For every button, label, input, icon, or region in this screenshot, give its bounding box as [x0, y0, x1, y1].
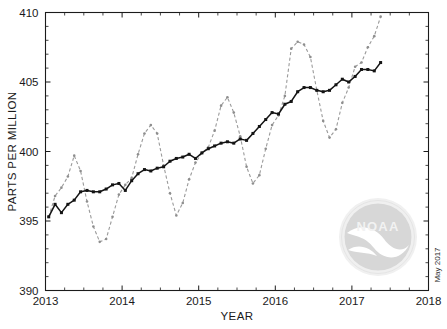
data-point-monthly [232, 111, 235, 114]
data-point-trend [303, 86, 306, 89]
data-point-trend [162, 165, 165, 168]
data-point-trend [366, 68, 369, 71]
ytick-label: 395 [19, 215, 38, 227]
data-point-monthly [213, 129, 216, 132]
data-point-monthly [79, 170, 82, 173]
data-point-trend [86, 189, 89, 192]
data-point-monthly [111, 216, 114, 219]
data-point-trend [73, 199, 76, 202]
data-point-trend [220, 142, 223, 145]
data-point-trend [347, 81, 350, 84]
data-point-monthly [143, 132, 146, 135]
data-point-trend [137, 172, 140, 175]
data-point-trend [175, 157, 178, 160]
series-line-trend [49, 63, 381, 217]
data-point-trend [54, 203, 57, 206]
data-point-monthly [98, 241, 101, 244]
data-point-monthly [67, 175, 70, 178]
data-point-monthly [354, 65, 357, 68]
data-point-trend [309, 86, 312, 89]
x-axis-title: YEAR [221, 310, 254, 322]
data-point-monthly [239, 135, 242, 138]
data-point-monthly [54, 195, 57, 198]
data-point-trend [296, 90, 299, 93]
data-point-monthly [118, 193, 121, 196]
data-point-monthly [271, 124, 274, 127]
series-line-monthly [49, 17, 381, 242]
data-point-trend [341, 78, 344, 81]
data-point-trend [245, 139, 248, 142]
data-point-trend [283, 103, 286, 106]
data-point-trend [98, 190, 101, 193]
data-point-trend [105, 188, 108, 191]
ytick-label: 405 [19, 76, 38, 88]
data-point-monthly [105, 238, 108, 241]
data-point-trend [143, 168, 146, 171]
data-point-monthly [335, 128, 338, 131]
data-point-monthly [258, 174, 261, 177]
data-point-monthly [341, 102, 344, 105]
data-point-trend [194, 157, 197, 160]
data-point-trend [322, 90, 325, 93]
data-point-monthly [347, 86, 350, 89]
data-point-trend [60, 211, 63, 214]
xtick-label: 2016 [263, 295, 289, 307]
data-point-monthly [252, 182, 255, 185]
date-stamp: May 2017 [433, 247, 442, 283]
data-point-monthly [367, 46, 370, 49]
data-point-trend [373, 69, 376, 72]
data-point-trend [66, 203, 69, 206]
data-point-trend [130, 179, 133, 182]
noaa-logo-watermark: NOAA [339, 198, 417, 276]
data-point-monthly [175, 214, 178, 217]
data-point-monthly [60, 186, 63, 189]
data-point-monthly [328, 136, 331, 139]
data-point-monthly [220, 104, 223, 107]
data-point-trend [290, 100, 293, 103]
data-point-trend [379, 61, 382, 64]
data-point-trend [124, 189, 127, 192]
data-point-monthly [169, 192, 172, 195]
data-point-trend [315, 89, 318, 92]
data-point-trend [271, 111, 274, 114]
data-point-monthly [379, 15, 382, 18]
xtick-label: 2017 [339, 295, 365, 307]
data-point-monthly [86, 200, 89, 203]
data-point-monthly [181, 202, 184, 205]
data-point-trend [328, 89, 331, 92]
xtick-label: 2015 [186, 295, 212, 307]
data-point-trend [200, 151, 203, 154]
data-point-monthly [303, 43, 306, 46]
data-point-monthly [137, 153, 140, 156]
data-point-trend [264, 118, 267, 121]
data-point-trend [47, 215, 50, 218]
xtick-label: 2014 [109, 295, 135, 307]
chart-canvas: NOAA201320142015201620172018390395400405… [0, 0, 447, 329]
data-point-monthly [360, 61, 363, 64]
data-point-trend [239, 137, 242, 140]
data-point-monthly [226, 96, 229, 99]
data-point-monthly [264, 147, 267, 150]
data-point-trend [251, 132, 254, 135]
data-point-monthly [284, 95, 287, 98]
data-point-monthly [194, 161, 197, 164]
data-point-monthly [92, 225, 95, 228]
data-point-monthly [296, 40, 299, 43]
svg-text:NOAA: NOAA [356, 219, 399, 234]
data-point-trend [117, 182, 120, 185]
data-point-monthly [124, 184, 127, 187]
data-point-monthly [373, 35, 376, 38]
data-point-monthly [73, 154, 76, 157]
y-axis-title: PARTS PER MILLION [6, 91, 18, 211]
ytick-label: 410 [19, 7, 38, 19]
xtick-label: 2018 [416, 295, 442, 307]
data-point-monthly [290, 47, 293, 50]
data-point-trend [277, 112, 280, 115]
data-point-trend [232, 142, 235, 145]
data-point-trend [258, 125, 261, 128]
data-point-trend [79, 190, 82, 193]
data-point-trend [188, 153, 191, 156]
data-point-trend [111, 183, 114, 186]
data-point-trend [92, 190, 95, 193]
data-point-monthly [188, 178, 191, 181]
